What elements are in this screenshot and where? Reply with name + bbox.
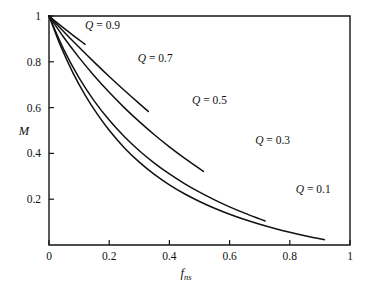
x-axis-ticks	[49, 240, 350, 245]
x-axis-tick-labels: 00.20.40.60.81	[46, 250, 353, 262]
y-tick-label-3: 0.8	[27, 56, 42, 68]
x-tick-label-1: 0.2	[102, 250, 117, 262]
series-label-value: = 0.3	[263, 134, 290, 146]
y-tick-label-4: 1	[35, 10, 41, 22]
y-tick-label-2: 0.6	[27, 102, 42, 114]
series-label-q-0-9: Q = 0.9	[85, 19, 120, 31]
x-tick-label-2: 0.4	[162, 250, 177, 262]
y-tick-label-1: 0.4	[27, 147, 42, 159]
series-label-q-0-1: Q = 0.1	[296, 183, 331, 195]
series-label-value: = 0.5	[200, 94, 227, 106]
curve-q-0-1	[49, 16, 324, 240]
plot-frame	[49, 16, 350, 245]
y-axis-ticks	[49, 16, 54, 199]
x-tick-label-3: 0.6	[222, 250, 237, 262]
series-label-q-0-7: Q = 0.7	[138, 52, 173, 64]
curve-q-0-3	[49, 16, 265, 221]
x-tick-label-4: 0.8	[283, 250, 298, 262]
y-tick-label-0: 0.2	[27, 193, 42, 205]
x-tick-label-5: 1	[347, 250, 353, 262]
x-tick-label-0: 0	[46, 250, 52, 262]
y-axis-title: M	[18, 124, 30, 138]
series-label-q-0-3: Q = 0.3	[255, 134, 290, 146]
series-label-value: = 0.1	[304, 183, 331, 195]
y-axis-tick-labels: 0.20.40.60.81	[27, 10, 42, 205]
series-label-q-0-5: Q = 0.5	[192, 94, 227, 106]
x-axis-title-subscript: ns	[184, 272, 192, 282]
chart-figure: 00.20.40.60.81 0.20.40.60.81 Q = 0.9Q = …	[0, 0, 370, 295]
series-annotations-group: Q = 0.9Q = 0.7Q = 0.5Q = 0.3Q = 0.1	[85, 19, 331, 196]
x-axis-title: fns	[180, 266, 192, 282]
series-label-value: = 0.9	[93, 19, 120, 31]
series-label-value: = 0.7	[146, 52, 173, 64]
chart-plot-svg: 00.20.40.60.81 0.20.40.60.81 Q = 0.9Q = …	[0, 0, 370, 295]
data-curves-group	[49, 16, 324, 240]
